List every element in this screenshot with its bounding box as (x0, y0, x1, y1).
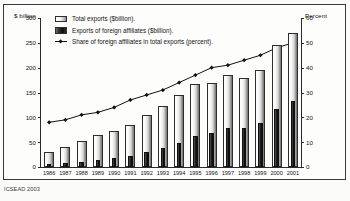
left-tick-mark (38, 117, 40, 118)
right-tick-mark (302, 43, 304, 44)
left-tick-mark (38, 43, 40, 44)
left-tick-mark (38, 93, 40, 94)
share-line-marker (80, 113, 84, 117)
x-tick-label: 2001 (283, 170, 303, 176)
figure-container: $ billion Percent Total exports ($billio… (0, 0, 350, 201)
bar-affiliates (242, 128, 247, 167)
bottom-axis-line (40, 167, 302, 168)
right-tick-label: 40 (306, 64, 332, 71)
left-tick-label: 0 (10, 163, 36, 170)
left-tick-mark (38, 142, 40, 143)
bar-affiliates (291, 101, 296, 167)
bar-affiliates (193, 136, 198, 167)
right-tick-mark (302, 93, 304, 94)
bar-affiliates (112, 158, 117, 167)
right-tick-label: 0 (306, 163, 332, 170)
right-tick-label: 10 (306, 139, 332, 146)
left-tick-label: 250 (10, 39, 36, 46)
share-line-marker (112, 105, 116, 109)
share-line-marker (193, 73, 197, 77)
right-tick-mark (302, 142, 304, 143)
right-tick-label: 60 (306, 14, 332, 21)
share-line-marker (63, 118, 67, 122)
left-tick-label: 50 (10, 139, 36, 146)
bar-affiliates (258, 123, 263, 167)
bar-affiliates (144, 152, 149, 167)
left-tick-label: 150 (10, 89, 36, 96)
left-tick-mark (38, 68, 40, 69)
left-tick-mark (38, 18, 40, 19)
right-tick-mark (302, 18, 304, 19)
bar-affiliates (161, 148, 166, 167)
right-tick-mark (302, 117, 304, 118)
right-tick-mark (302, 68, 304, 69)
plot-area (41, 18, 301, 167)
bar-affiliates (226, 128, 231, 167)
left-tick-label: 300 (10, 14, 36, 21)
share-line-marker (145, 93, 149, 97)
bar-affiliates (96, 160, 101, 167)
share-line-marker (226, 63, 230, 67)
share-line-marker (96, 110, 100, 114)
source-note: ICSEAD 2003 (4, 186, 40, 192)
share-line-marker (177, 80, 181, 84)
bar-affiliates (47, 164, 52, 167)
bar-affiliates (274, 109, 279, 167)
right-tick-label: 20 (306, 114, 332, 121)
right-tick-mark (302, 167, 304, 168)
left-tick-label: 200 (10, 64, 36, 71)
right-tick-label: 30 (306, 89, 332, 96)
share-line-marker (210, 66, 214, 70)
left-tick-mark (38, 167, 40, 168)
share-line-marker (258, 53, 262, 57)
bar-affiliates (63, 163, 68, 167)
bar-affiliates (177, 143, 182, 167)
bar-affiliates (79, 162, 84, 167)
share-line-marker (242, 58, 246, 62)
left-tick-label: 100 (10, 114, 36, 121)
bar-affiliates (128, 156, 133, 167)
share-line-marker (161, 88, 165, 92)
bar-affiliates (209, 133, 214, 167)
share-line-marker (128, 98, 132, 102)
right-tick-label: 50 (306, 39, 332, 46)
share-line-marker (47, 120, 51, 124)
